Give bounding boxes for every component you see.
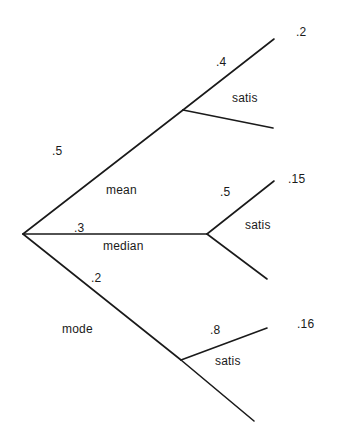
tree-lines (0, 0, 337, 444)
mode-satis-label: satis (215, 355, 241, 367)
median-joint-probability-label: .15 (288, 173, 305, 185)
mean-satis-label: satis (232, 92, 258, 104)
mean-branch-label: mean (106, 184, 137, 196)
median-probability-label: .3 (74, 222, 84, 234)
mean-joint-probability-label: .2 (296, 26, 306, 38)
mode-probability-label: .2 (91, 272, 101, 284)
branch-mean-satis (183, 39, 274, 110)
mode-satis-probability-label: .8 (210, 324, 220, 336)
probability-tree-diagram: .5 mean .4 satis .2 .3 median .5 satis .… (0, 0, 337, 444)
median-satis-probability-label: .5 (220, 186, 230, 198)
branch-mode (23, 234, 181, 360)
mode-joint-probability-label: .16 (297, 318, 314, 330)
branch-mean (23, 110, 183, 234)
branch-mean-not-satis (183, 110, 273, 128)
branch-mode-not-satis (181, 360, 254, 421)
mean-satis-probability-label: .4 (216, 56, 226, 68)
mean-probability-label: .5 (52, 145, 62, 157)
median-satis-label: satis (245, 219, 271, 231)
median-branch-label: median (103, 240, 144, 252)
branch-median-not-satis (207, 234, 267, 279)
mode-branch-label: mode (62, 323, 93, 335)
